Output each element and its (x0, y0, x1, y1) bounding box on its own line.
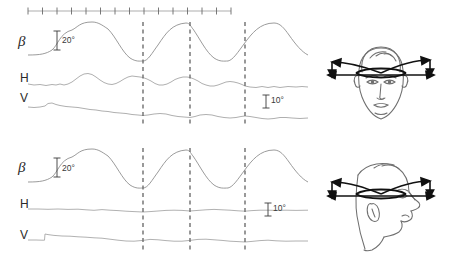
figure-eye-head-recordings: β H V 20° 10° (0, 0, 452, 257)
channel-label-h-top: H (20, 72, 29, 84)
scale-value-beta-bottom: 20° (62, 164, 75, 173)
scale-bar-h-bottom (265, 203, 272, 216)
scale-bar-v-top (263, 95, 270, 108)
channel-label-h-bottom: H (20, 198, 29, 210)
head-diagram-frontal (310, 0, 452, 130)
trace-v-bottom (28, 234, 308, 242)
head-diagram-profile (310, 130, 452, 257)
head-band-profile (356, 190, 406, 199)
recording-panel-top: β H V 20° 10° (0, 0, 310, 130)
channel-label-beta-top: β (18, 34, 25, 49)
channel-label-v-top: V (20, 92, 28, 104)
head-frontal-svg (310, 0, 452, 130)
time-axis-top (28, 8, 231, 15)
event-markers-bottom (143, 148, 245, 251)
scale-value-beta-top: 20° (62, 36, 75, 45)
traces-bottom-svg (0, 130, 310, 257)
scale-value-h-bottom: 10° (273, 204, 286, 213)
head-profile-svg (310, 130, 452, 257)
event-markers-top (143, 22, 245, 127)
channel-label-beta-bottom: β (18, 160, 25, 175)
trace-h-top (28, 74, 308, 88)
scale-value-v-top: 10° (271, 96, 284, 105)
channel-label-v-bottom: V (20, 229, 28, 241)
trace-h-bottom (28, 209, 308, 212)
recording-panel-bottom: β H V 20° 10° (0, 130, 310, 257)
traces-top-svg (0, 0, 310, 130)
